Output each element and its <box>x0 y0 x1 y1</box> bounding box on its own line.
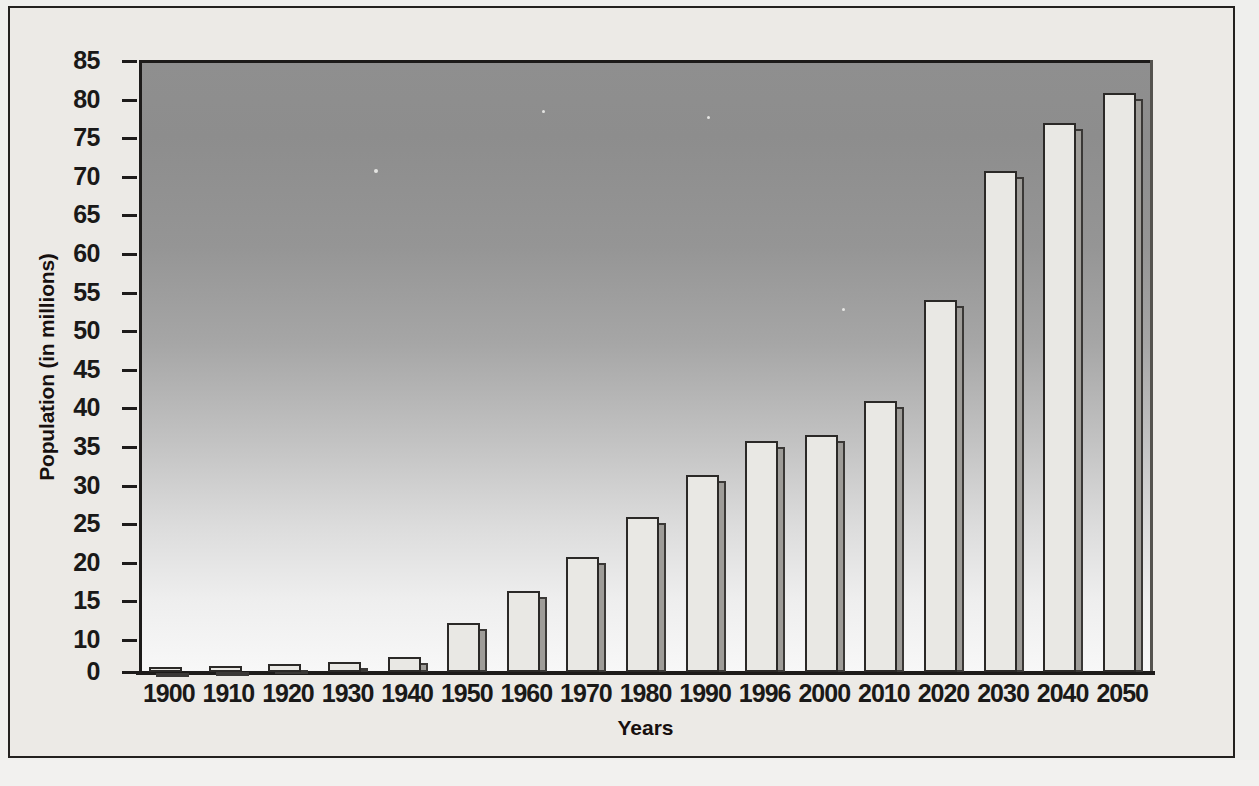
bar <box>149 667 182 672</box>
y-axis-tick-label: 80 <box>36 87 100 112</box>
population-bar-chart: 010152025303540455055606570758085 Popula… <box>0 0 1259 786</box>
y-axis-tick-mark <box>122 523 137 526</box>
y-axis-tick-mark <box>122 99 137 102</box>
x-axis-tick-label: 2050 <box>1082 679 1162 708</box>
bar <box>924 300 957 672</box>
bar <box>686 475 719 672</box>
y-axis-tick-label: 15 <box>36 588 100 613</box>
y-axis-title: Population (in millions) <box>35 217 59 517</box>
bar <box>566 557 599 672</box>
y-axis-tick-mark <box>122 671 137 674</box>
bar <box>864 401 897 672</box>
y-axis-tick-label: 0 <box>36 659 100 684</box>
bar <box>745 441 778 672</box>
y-axis-tick-mark <box>122 330 137 333</box>
y-axis-tick-label: 70 <box>36 164 100 189</box>
y-axis-tick-mark <box>122 485 137 488</box>
plot-right-edge <box>1150 60 1153 673</box>
bar <box>328 662 361 672</box>
bar <box>447 623 480 672</box>
y-axis-tick-mark <box>122 407 137 410</box>
x-axis-title: Years <box>139 716 1152 740</box>
bar <box>805 435 838 672</box>
y-axis-tick-mark <box>122 369 137 372</box>
bar <box>388 657 421 672</box>
bar <box>268 664 301 672</box>
bar <box>984 171 1017 672</box>
y-axis-tick-mark <box>122 60 137 63</box>
y-axis-tick-mark <box>122 639 137 642</box>
y-axis-tick-mark <box>122 137 137 140</box>
y-axis-tick-label: 75 <box>36 125 100 150</box>
y-axis-tick-label: 20 <box>36 550 100 575</box>
bar <box>1043 123 1076 672</box>
y-axis-tick-label: 85 <box>36 48 100 73</box>
bar <box>1103 93 1136 672</box>
y-axis-tick-mark <box>122 446 137 449</box>
y-axis-tick-mark <box>122 253 137 256</box>
y-axis-tick-mark <box>122 600 137 603</box>
y-axis-tick-label: 10 <box>36 627 100 652</box>
y-axis-tick-mark <box>122 562 137 565</box>
y-axis-tick-mark <box>122 214 137 217</box>
bar <box>626 517 659 672</box>
bar-shadow <box>156 673 189 677</box>
bar <box>209 666 242 672</box>
y-axis-tick-mark <box>122 176 137 179</box>
bar-shadow <box>216 672 249 676</box>
bar <box>507 591 540 672</box>
y-axis-tick-labels: 010152025303540455055606570758085 <box>0 0 120 786</box>
y-axis-tick-mark <box>122 292 137 295</box>
